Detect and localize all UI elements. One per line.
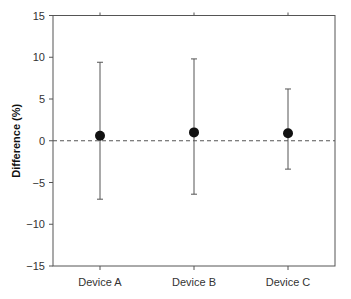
y-tick-label: −5 <box>32 177 45 189</box>
data-point-group <box>95 62 105 199</box>
y-tick-label: 15 <box>33 10 45 22</box>
y-tick-label: 0 <box>39 135 45 147</box>
y-axis-title: Difference (%) <box>10 103 22 177</box>
x-tick-label: Device C <box>266 276 311 288</box>
data-point-marker <box>95 131 105 141</box>
y-tick-label: −15 <box>26 260 45 272</box>
chart: 151050−5−10−15 Device ADevice BDevice C … <box>0 0 351 299</box>
x-tick-label: Device B <box>172 276 216 288</box>
y-tick-label: 5 <box>39 93 45 105</box>
x-tick-label: Device A <box>78 276 122 288</box>
y-tick-label: −10 <box>26 218 45 230</box>
data-point-group <box>283 89 293 169</box>
data-point-marker <box>283 128 293 138</box>
y-axis-ticks: 151050−5−10−15 <box>26 10 53 273</box>
data-series <box>95 59 293 199</box>
data-point-marker <box>189 127 199 137</box>
data-point-group <box>189 59 199 194</box>
y-tick-label: 10 <box>33 51 45 63</box>
